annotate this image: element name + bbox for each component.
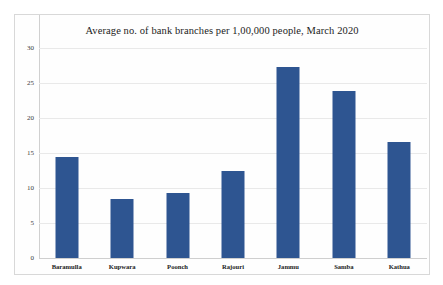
plot-area: 051015202530 BaramullaKupwaraPoonchRajou… [39,48,427,258]
bar[interactable] [55,157,78,258]
y-axis-tick-label: 30 [27,44,34,52]
bar[interactable] [388,142,411,258]
bar[interactable] [332,91,355,258]
x-axis-category-label: Rajouri [222,263,244,270]
chart-title: Average no. of bank branches per 1,00,00… [15,25,429,36]
x-axis-category-label: Kathua [389,263,410,270]
x-axis-category-label: Jammu [278,263,299,270]
bar-slot: Jammu [261,48,316,258]
x-axis-category-label: Kupwara [109,263,136,270]
y-axis-tick-label: 10 [27,184,34,192]
bar-slot: Kathua [372,48,427,258]
x-axis-category-label: Poonch [167,263,188,270]
y-axis-tick-label: 0 [31,254,35,262]
y-axis-tick-label: 25 [27,79,34,87]
bar-slot: Poonch [150,48,205,258]
y-axis-tick-label: 15 [27,149,34,157]
x-axis-category-label: Baramulla [52,263,82,270]
x-axis-category-label: Samba [334,263,353,270]
bar-slot: Rajouri [205,48,260,258]
bar[interactable] [166,193,189,258]
y-axis-tick-label: 20 [27,114,34,122]
bar-slot: Samba [316,48,371,258]
bar[interactable] [221,171,244,258]
bar-slot: Kupwara [94,48,149,258]
bar[interactable] [277,67,300,258]
bar[interactable] [111,199,134,258]
y-axis-tick-label: 5 [31,219,35,227]
gridline: 0 [39,258,427,259]
chart-container: Average no. of bank branches per 1,00,00… [14,14,430,275]
bar-slot: Baramulla [39,48,94,258]
